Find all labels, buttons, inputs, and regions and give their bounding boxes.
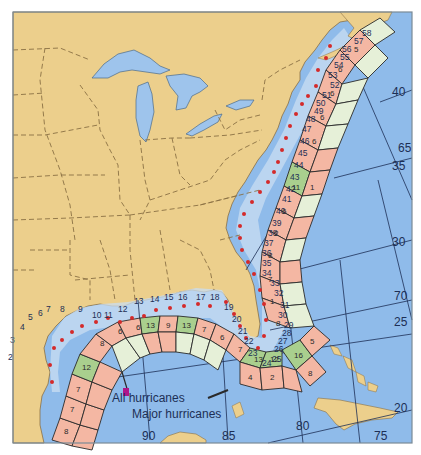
svg-text:7: 7 — [202, 325, 207, 334]
svg-text:5: 5 — [28, 312, 33, 322]
svg-text:53: 53 — [328, 70, 338, 80]
svg-text:7: 7 — [238, 345, 243, 354]
svg-text:22: 22 — [244, 336, 254, 346]
svg-text:15: 15 — [164, 292, 174, 302]
svg-text:8: 8 — [64, 427, 69, 436]
svg-text:75: 75 — [374, 429, 388, 443]
svg-text:43: 43 — [290, 172, 300, 182]
svg-text:17: 17 — [196, 292, 206, 302]
svg-text:1: 1 — [270, 297, 275, 306]
svg-text:1: 1 — [310, 183, 315, 192]
svg-text:4: 4 — [20, 322, 25, 332]
svg-text:7: 7 — [70, 405, 75, 414]
svg-text:44: 44 — [294, 160, 304, 170]
legend-all-hurricanes: All hurricanes — [112, 391, 185, 405]
svg-text:47: 47 — [302, 124, 312, 134]
svg-text:12: 12 — [82, 363, 91, 372]
svg-text:21: 21 — [238, 326, 248, 336]
svg-text:20: 20 — [394, 401, 408, 415]
svg-text:6: 6 — [38, 308, 43, 318]
svg-text:5: 5 — [310, 337, 315, 346]
svg-text:65: 65 — [398, 141, 412, 155]
svg-text:6: 6 — [220, 333, 225, 342]
svg-text:7: 7 — [46, 304, 51, 314]
svg-text:25: 25 — [394, 315, 408, 329]
svg-text:6: 6 — [320, 113, 325, 122]
svg-text:8: 8 — [60, 304, 65, 314]
svg-text:8: 8 — [268, 251, 273, 260]
svg-text:56: 56 — [342, 44, 352, 54]
svg-text:2: 2 — [270, 373, 275, 382]
svg-text:6: 6 — [330, 89, 335, 98]
svg-text:8: 8 — [308, 369, 313, 378]
svg-text:19: 19 — [224, 302, 234, 312]
svg-text:45: 45 — [298, 148, 308, 158]
svg-text:39: 39 — [272, 218, 282, 228]
svg-text:9: 9 — [166, 321, 171, 330]
svg-text:4: 4 — [248, 373, 253, 382]
svg-text:6: 6 — [338, 65, 343, 74]
svg-text:46: 46 — [300, 136, 310, 146]
svg-text:16: 16 — [178, 292, 188, 302]
svg-text:30: 30 — [392, 235, 406, 249]
svg-text:6: 6 — [312, 137, 317, 146]
svg-text:32: 32 — [274, 288, 284, 298]
svg-text:10: 10 — [92, 310, 102, 320]
svg-text:20: 20 — [232, 314, 242, 324]
svg-text:13: 13 — [254, 355, 263, 364]
svg-text:16: 16 — [294, 351, 303, 360]
svg-text:12: 12 — [270, 355, 279, 364]
svg-text:31: 31 — [280, 300, 290, 310]
svg-text:40: 40 — [392, 85, 406, 99]
svg-text:90: 90 — [142, 429, 156, 443]
legend-major-hurricanes: Major hurricanes — [132, 407, 221, 421]
svg-text:29: 29 — [284, 320, 294, 330]
svg-text:6: 6 — [282, 207, 287, 216]
svg-text:7: 7 — [268, 275, 273, 284]
svg-text:9: 9 — [78, 304, 83, 314]
svg-text:6: 6 — [136, 323, 141, 332]
svg-text:12: 12 — [118, 304, 128, 314]
svg-text:13: 13 — [134, 296, 144, 306]
svg-text:18: 18 — [210, 292, 220, 302]
svg-text:8: 8 — [276, 319, 281, 328]
svg-text:35: 35 — [392, 159, 406, 173]
svg-text:8: 8 — [100, 339, 105, 348]
svg-text:11: 11 — [292, 183, 301, 192]
svg-text:14: 14 — [150, 294, 160, 304]
svg-text:13: 13 — [146, 321, 155, 330]
svg-text:13: 13 — [182, 321, 191, 330]
svg-text:5: 5 — [354, 45, 359, 54]
svg-text:2: 2 — [8, 352, 13, 362]
svg-text:11: 11 — [104, 310, 113, 320]
svg-text:41: 41 — [282, 194, 292, 204]
hurricane-frequency-map: 2 3 4 5 6 7 8 9 10 11 12 13 14 15 16 17 … — [0, 0, 421, 455]
svg-text:58: 58 — [362, 28, 372, 38]
svg-text:70: 70 — [394, 289, 408, 303]
svg-text:2: 2 — [274, 229, 279, 238]
svg-text:6: 6 — [118, 327, 123, 336]
svg-text:37: 37 — [264, 238, 274, 248]
svg-text:85: 85 — [222, 429, 236, 443]
svg-text:7: 7 — [76, 385, 81, 394]
svg-text:80: 80 — [296, 419, 310, 433]
